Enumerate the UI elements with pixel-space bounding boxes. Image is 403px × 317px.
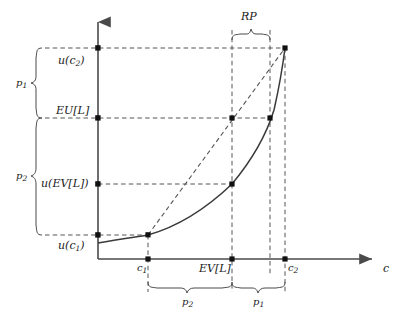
label-eu-l-script: L [78, 104, 85, 117]
label-u-c2: u(c2) [58, 55, 85, 68]
point-c2-xaxis [282, 256, 287, 261]
brace-top-rp [232, 29, 270, 40]
chord-line [148, 48, 285, 235]
vertical-guides [148, 30, 285, 292]
label-u-ev-l-close: ]) [80, 177, 89, 190]
brace-horizontal-p1 [232, 282, 285, 293]
label-c2-sub: 2 [294, 266, 299, 275]
label-u-c2-close: ) [80, 54, 84, 67]
point-ev-chord [229, 115, 234, 120]
label-ev-l: EV[L] [199, 263, 231, 274]
label-u-ev-l-script: L [73, 177, 80, 190]
label-u-ev-l-lead: u(EV[ [41, 177, 73, 190]
label-u-c1-close: ) [80, 239, 84, 252]
label-c1: c1 [137, 263, 147, 275]
brace-label-p2-horizontal: p2 [182, 297, 193, 309]
label-u-c1-base: u(c [58, 239, 76, 252]
point-ev-curve [229, 181, 234, 186]
label-u-c1: u(c1) [58, 240, 85, 253]
label-ev-l-script: L [219, 262, 226, 275]
point-u-c2-axis [95, 45, 100, 50]
point-u-ev-l-axis [95, 181, 100, 186]
utility-curve [98, 48, 285, 243]
point-c2-curve [282, 45, 287, 50]
brace-label-p1-horizontal-sub: 1 [259, 300, 264, 309]
figure-canvas: u(c2) EU[L] u(EV[L]) u(c1) c1 EV[L] c2 c… [0, 0, 403, 317]
point-ce-curve [267, 115, 272, 120]
axis-label-x: c [383, 263, 389, 274]
point-eu-l-axis [95, 115, 100, 120]
point-c1-xaxis [145, 256, 150, 261]
point-u-c1-axis [95, 232, 100, 237]
marked-points [95, 45, 287, 261]
horizontal-guides [45, 48, 285, 235]
brace-horizontal-p2 [148, 282, 232, 293]
label-c2: c2 [288, 263, 298, 275]
brace-label-p1-horizontal: p1 [253, 297, 264, 309]
brace-label-p1-vertical: p1 [16, 78, 27, 90]
label-eu-l-close: ] [85, 104, 89, 117]
brace-label-p2-vertical: p2 [16, 171, 27, 183]
label-eu-l-lead: EU[ [56, 104, 78, 117]
point-c1-curve [145, 232, 150, 237]
brace-label-p1-vertical-sub: 1 [22, 81, 27, 90]
brace-label-p2-vertical-sub: 2 [22, 174, 27, 183]
label-u-ev-l: u(EV[L]) [41, 178, 89, 189]
brace-vertical-p1 [31, 48, 42, 118]
label-ev-l-close: ] [227, 262, 231, 275]
label-u-c2-base: u(c [58, 54, 76, 67]
label-ev-l-lead: EV[ [199, 262, 219, 275]
label-c1-sub: 1 [143, 266, 148, 275]
label-eu-l: EU[L] [56, 105, 89, 116]
point-ev-xaxis [229, 256, 234, 261]
brace-label-rp: RP [241, 11, 257, 22]
brace-label-p2-horizontal-sub: 2 [188, 300, 193, 309]
axis-group [98, 22, 372, 259]
